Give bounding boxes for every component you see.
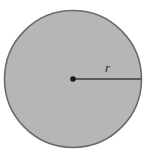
figure-canvas: r xyxy=(0,0,148,157)
center-dot xyxy=(70,76,76,82)
circle-radius-figure: r xyxy=(0,0,148,157)
